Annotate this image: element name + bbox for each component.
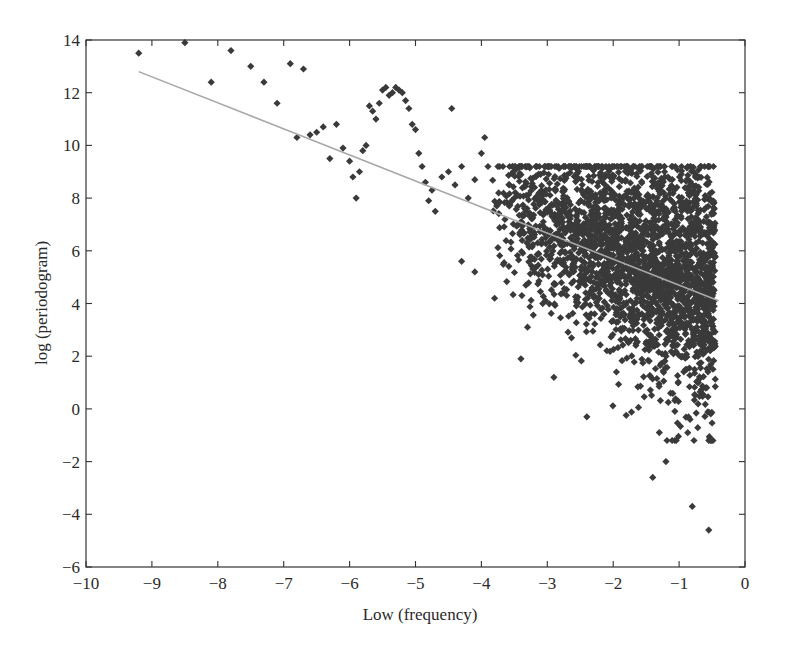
data-point — [583, 320, 590, 327]
data-point — [496, 224, 503, 231]
x-tick-label: −8 — [209, 574, 227, 593]
data-point — [306, 131, 313, 138]
data-point — [564, 329, 571, 336]
data-point — [503, 278, 510, 285]
data-point — [418, 163, 425, 170]
data-point — [548, 310, 555, 317]
data-point — [415, 150, 422, 157]
data-point — [674, 379, 681, 386]
data-point — [247, 63, 254, 70]
data-point — [550, 374, 557, 381]
y-tick-label: −6 — [62, 558, 80, 577]
data-point — [708, 419, 715, 426]
data-point — [702, 401, 709, 408]
data-point — [356, 168, 363, 175]
data-point — [471, 268, 478, 275]
data-point — [689, 503, 696, 510]
data-point — [489, 177, 496, 184]
data-point — [662, 458, 669, 465]
y-tick-label: −2 — [62, 453, 80, 472]
regression-line — [139, 72, 719, 301]
y-tick-label: 0 — [72, 400, 81, 419]
data-point — [510, 291, 517, 298]
x-axis-label: Low (frequency) — [363, 605, 478, 624]
x-tick-label: −1 — [670, 574, 688, 593]
data-point — [647, 386, 654, 393]
data-point — [333, 121, 340, 128]
data-point — [635, 404, 642, 411]
data-point — [208, 79, 215, 86]
data-point — [712, 383, 719, 390]
x-tick-label: −2 — [604, 574, 622, 593]
data-point — [448, 105, 455, 112]
x-tick-label: −5 — [406, 574, 424, 593]
data-point — [517, 355, 524, 362]
x-tick-label: −4 — [472, 574, 491, 593]
data-point — [349, 173, 356, 180]
data-point — [694, 424, 701, 431]
data-point — [376, 100, 383, 107]
data-point — [402, 97, 409, 104]
data-point — [597, 341, 604, 348]
data-point — [458, 163, 465, 170]
data-point — [438, 173, 445, 180]
data-point — [573, 319, 580, 326]
data-point — [478, 150, 485, 157]
y-axis-label: log (periodogram) — [32, 241, 51, 365]
x-tick-label: −6 — [341, 574, 359, 593]
data-point — [494, 244, 501, 251]
data-point — [346, 158, 353, 165]
data-point — [260, 79, 267, 86]
data-point — [524, 324, 531, 331]
data-point — [668, 163, 675, 170]
data-point — [287, 60, 294, 67]
data-point — [583, 328, 590, 335]
data-point — [451, 181, 458, 188]
y-tick-label: 4 — [72, 295, 81, 314]
data-point — [661, 163, 668, 170]
y-tick-label: 6 — [72, 242, 81, 261]
data-point — [613, 368, 620, 375]
data-point — [684, 429, 691, 436]
data-points — [135, 39, 719, 534]
data-point — [495, 189, 502, 196]
data-point — [425, 197, 432, 204]
data-point — [641, 393, 648, 400]
data-point — [313, 129, 320, 136]
data-point — [665, 399, 672, 406]
data-point — [578, 357, 585, 364]
y-tick-label: −4 — [62, 505, 81, 524]
data-point — [326, 155, 333, 162]
y-tick-label: 14 — [63, 31, 81, 50]
data-point — [481, 134, 488, 141]
y-tick-label: 12 — [63, 84, 80, 103]
data-point — [690, 437, 697, 444]
data-point — [557, 314, 564, 321]
data-point — [609, 402, 616, 409]
data-point — [471, 176, 478, 183]
data-point — [558, 279, 565, 286]
data-point — [705, 527, 712, 534]
data-point — [544, 266, 551, 273]
data-point — [458, 258, 465, 265]
scatter-chart: −10−9−8−7−6−5−4−3−2−10−6−4−202468101214 … — [0, 0, 791, 655]
data-point — [583, 413, 590, 420]
data-point — [509, 230, 516, 237]
data-point — [135, 50, 142, 57]
data-point — [353, 195, 360, 202]
data-point — [511, 269, 518, 276]
data-point — [507, 245, 514, 252]
data-point — [615, 381, 622, 388]
data-point — [300, 65, 307, 72]
data-point — [591, 320, 598, 327]
data-point — [545, 273, 552, 280]
data-point — [526, 303, 533, 310]
data-point — [572, 352, 579, 359]
data-point — [518, 292, 525, 299]
data-point — [657, 397, 664, 404]
y-tick-label: 8 — [72, 189, 81, 208]
data-point — [372, 115, 379, 122]
data-point — [674, 372, 681, 379]
data-point — [693, 409, 700, 416]
data-point — [648, 392, 655, 399]
